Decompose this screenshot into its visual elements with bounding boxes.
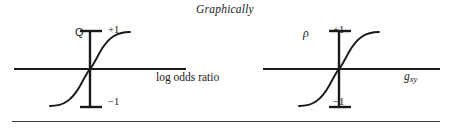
y-tick-label-positive-left: +1 [108, 25, 119, 36]
x-axis-label-right: gxy [404, 71, 417, 83]
y-tick-label-negative-left: −1 [108, 97, 119, 108]
y-axis-label-left: Q [75, 27, 84, 38]
x-axis-label-right-subscript: xy [410, 74, 418, 84]
bottom-divider-rule [12, 121, 440, 122]
graphically-figure: Graphically Q +1 −1 log odds ratio ρ +1 [0, 0, 450, 129]
x-axis-label-left: log odds ratio [156, 72, 219, 84]
y-axis-label-right: ρ [303, 27, 309, 39]
figure-title: Graphically [0, 3, 450, 15]
chart-panel-right [259, 18, 444, 114]
chart-panel-left [10, 18, 190, 114]
y-tick-label-positive-right: +1 [333, 25, 344, 36]
y-tick-label-negative-right: −1 [333, 97, 344, 108]
sigmoid-plot-right [259, 18, 444, 114]
sigmoid-plot-left [10, 18, 190, 114]
